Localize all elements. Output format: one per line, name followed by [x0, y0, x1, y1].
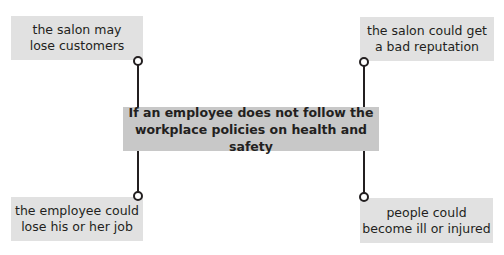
consequence-text-line2: lose his or her job: [15, 219, 139, 235]
consequence-text-line1: the salon could get: [367, 23, 487, 39]
central-text-line2: workplace policies on health and safety: [123, 121, 379, 155]
consequence-text-line2: lose customers: [30, 38, 125, 54]
consequence-box-bottom-right: people could become ill or injured: [360, 198, 493, 243]
consequence-text-line1: the salon may: [30, 22, 125, 38]
central-text-line1: If an employee does not follow the: [123, 104, 379, 121]
consequence-text-line2: a bad reputation: [367, 39, 487, 55]
consequence-box-bottom-left: the employee could lose his or her job: [11, 197, 143, 241]
connector-node-top-left: [133, 56, 143, 66]
central-condition-box: If an employee does not follow the workp…: [123, 107, 379, 151]
connector-node-top-right: [359, 57, 369, 67]
consequence-text-line1: people could: [362, 205, 490, 221]
connector-node-bottom-left: [133, 191, 143, 201]
consequence-text-line2: become ill or injured: [362, 221, 490, 237]
consequence-text-line1: the employee could: [15, 203, 139, 219]
connector-node-bottom-right: [359, 192, 369, 202]
consequence-box-top-left: the salon may lose customers: [11, 16, 143, 60]
consequence-box-top-right: the salon could get a bad reputation: [360, 17, 494, 61]
